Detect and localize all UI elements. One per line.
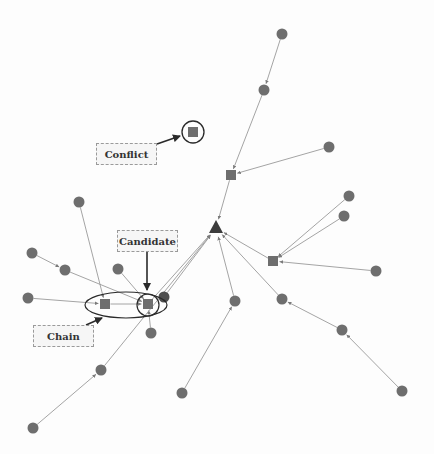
- edge-n3-s1: [237, 149, 323, 174]
- edge-n16-chainsq: [80, 207, 103, 297]
- node-square-s2: [268, 256, 278, 266]
- edge-s2-root: [224, 233, 268, 259]
- edge-n7-root: [218, 237, 233, 296]
- conflict-arrow: [157, 136, 180, 144]
- edge-n9-n8: [288, 302, 337, 327]
- graph-canvas: Conflict Candidate Chain: [0, 0, 434, 454]
- edge-n17-cand: [122, 273, 144, 299]
- node-circle-n17: [113, 264, 124, 275]
- node-circle-n10: [397, 386, 408, 397]
- node-circle-n18: [146, 328, 157, 339]
- graph-svg: [0, 0, 434, 454]
- node-circle-n13: [27, 248, 38, 259]
- node-circle-n19: [96, 365, 107, 376]
- edge-n11-n7: [185, 307, 232, 389]
- node-circle-n3: [324, 142, 335, 153]
- node-circle-n5: [339, 211, 350, 222]
- edge-n2-s1: [233, 95, 262, 169]
- node-circle-n16: [74, 197, 85, 208]
- node-circle-n14: [60, 265, 71, 276]
- node-circle-n20: [28, 423, 39, 434]
- edge-n18-cand: [149, 310, 151, 327]
- node-circle-n2: [259, 85, 270, 96]
- edge-n6-s2: [279, 262, 370, 271]
- edge-n5-s2: [278, 219, 339, 258]
- node-square-cand: [143, 299, 153, 309]
- conflict-label: Conflict: [96, 143, 157, 165]
- chain-label: Chain: [33, 325, 94, 347]
- edge-n20-n19: [37, 374, 96, 424]
- node-circle-n1: [277, 29, 288, 40]
- edge-n13-n14: [37, 256, 59, 268]
- nodes-layer: [23, 29, 408, 434]
- edge-s1-root: [218, 180, 229, 219]
- node-circle-n7: [230, 296, 241, 307]
- node-circle-n4: [344, 191, 355, 202]
- candidate-label: Candidate: [117, 230, 178, 252]
- chain-arrow: [86, 318, 102, 325]
- node-square-chainsq: [100, 299, 110, 309]
- edge-n4-s2: [278, 200, 345, 257]
- node-circle-n11: [177, 388, 188, 399]
- node-circle-n15: [23, 293, 34, 304]
- edge-n1-n2: [266, 39, 280, 84]
- edge-n10-n9: [347, 335, 399, 387]
- node-square-s1: [226, 170, 236, 180]
- node-circle-n12: [159, 292, 170, 303]
- edge-n14-cand: [70, 272, 142, 301]
- root-triangle-node: [209, 220, 223, 233]
- node-circle-n9: [337, 325, 348, 336]
- node-circle-n8: [277, 294, 288, 305]
- node-square-conflict: [188, 127, 198, 137]
- node-circle-n6: [371, 266, 382, 277]
